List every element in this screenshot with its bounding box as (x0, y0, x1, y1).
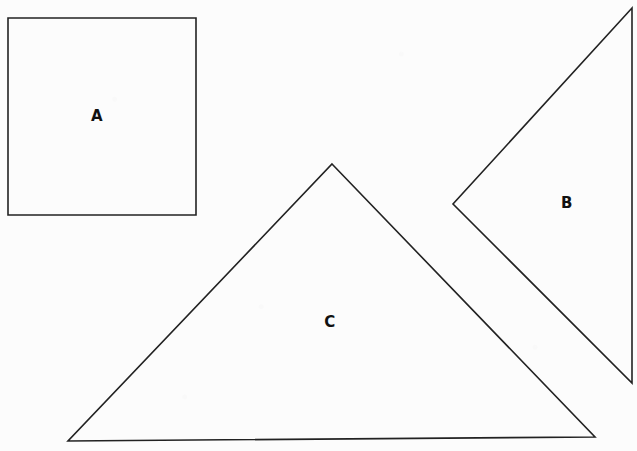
triangle-b-label: B (561, 194, 573, 212)
triangle-b-outline[interactable] (453, 8, 632, 383)
square-a-label: A (91, 107, 103, 125)
shapes-canvas: A B C (0, 0, 637, 451)
triangle-c-label: C (324, 313, 336, 331)
figure-canvas: A B C (0, 0, 637, 451)
triangle-c-outline[interactable] (68, 164, 595, 441)
